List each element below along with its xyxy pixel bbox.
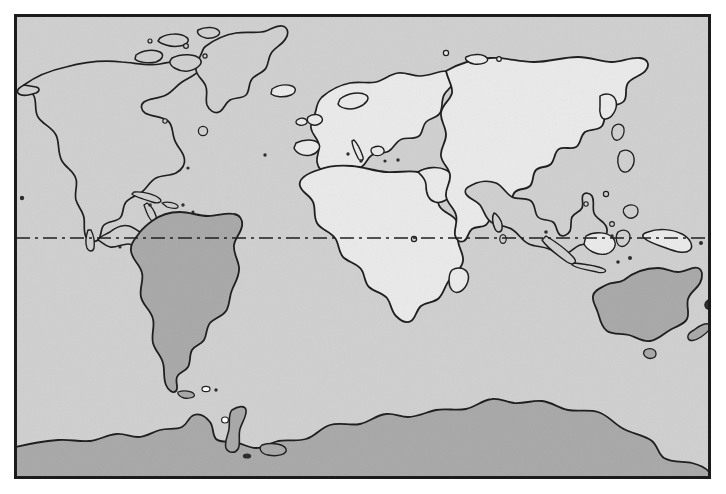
paper-grain-overlay <box>16 16 709 477</box>
world-map-figure: World map outline, equirectangular proje… <box>0 0 726 494</box>
world-map-canvas <box>0 0 726 494</box>
